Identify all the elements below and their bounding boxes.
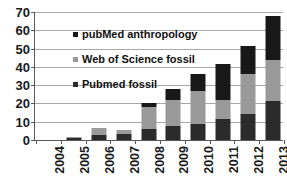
bar-segment [216,64,231,100]
bar-segment [265,16,280,60]
bar-segment [141,107,156,129]
x-tick-mark [86,140,87,144]
x-tick-mark [185,140,186,144]
y-axis: 010203040506070 [0,0,30,178]
bar-segment [191,124,206,140]
bar-group [116,130,131,140]
x-tick-mark [259,140,260,144]
bar-segment [240,74,255,113]
bar-segment [116,130,131,134]
y-tick-label: 20 [4,97,30,110]
bar-segment [166,100,181,127]
legend-entry: pubMed anthropology [73,29,197,40]
x-tick-label: 2013 [278,146,287,174]
legend-entry: Web of Science fossil [73,54,195,65]
bar-segment [191,91,206,125]
bar-segment [141,129,156,140]
x-tick-label: 2008 [154,146,167,174]
x-tick-label: 2011 [228,146,241,173]
legend-label: Pubmed fossil [82,79,157,90]
x-tick-label: 2006 [104,146,117,174]
bar-group [92,128,107,140]
y-tick-label: 10 [4,115,30,128]
x-tick-mark [160,140,161,144]
bar-segment [240,46,255,74]
bar-chart: 010203040506070 pubMed anthropologyWeb o… [0,0,287,178]
x-tick-label: 2009 [178,146,191,174]
bar-segment [166,126,181,140]
x-tick-label: 2004 [54,146,67,174]
legend-swatch-icon [73,57,78,62]
y-tick-label: 30 [4,79,30,92]
bar-segment [240,114,255,141]
x-tick-label: 2012 [253,146,266,174]
y-tick-label: 60 [4,24,30,37]
legend-label: Web of Science fossil [82,54,195,65]
legend-swatch-icon [73,82,78,87]
x-tick-label: 2010 [203,146,216,174]
bar-segment [166,89,181,100]
bar-segment [67,137,82,138]
bar-segment [191,74,206,90]
legend-swatch-icon [73,32,78,37]
x-tick-mark [36,140,37,144]
x-tick-mark [61,140,62,144]
y-tick-label: 70 [4,6,30,19]
bar-group [191,74,206,140]
x-tick-mark [110,140,111,144]
plot-area: pubMed anthropologyWeb of Science fossil… [34,12,283,141]
y-tick-label: 0 [4,134,30,147]
legend-entry: Pubmed fossil [73,79,157,90]
y-tick-label: 50 [4,42,30,55]
bar-segment [265,60,280,101]
legend-label: pubMed anthropology [82,29,197,40]
bar-group [216,64,231,140]
bar-segment [265,101,280,140]
x-tick-mark [234,140,235,144]
y-tick-label: 40 [4,60,30,73]
bar-group [265,16,280,140]
x-axis: 2004200520062007200820092010201120122013 [34,146,282,178]
bar-segment [216,100,231,119]
x-tick-label: 2007 [129,146,142,174]
x-tick-mark [284,140,285,144]
x-axis-ticks [34,140,282,145]
x-tick-label: 2005 [79,146,92,174]
bar-group [166,89,181,140]
bar-group [141,103,156,140]
bar-segment [141,103,156,108]
x-tick-mark [135,140,136,144]
x-tick-mark [210,140,211,144]
bar-segment [92,128,107,134]
bar-group [240,46,255,140]
bar-segment [216,119,231,140]
